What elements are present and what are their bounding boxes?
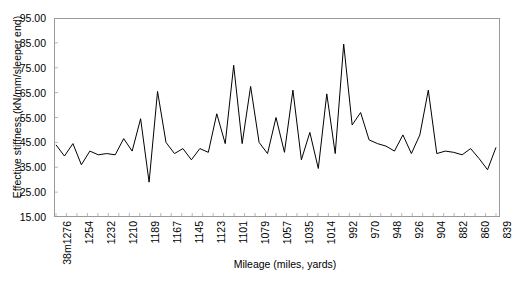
data-series-line [56,44,496,182]
x-axis-tick-label: 1101 [237,221,249,244]
x-axis-tick-label: 1189 [149,221,161,244]
y-axis-tick-label: 75.00 [20,62,46,74]
x-axis-tick-label: 1254 [83,221,95,244]
x-axis-tick-label: 860 [479,221,491,239]
x-axis-tick-label: 882 [457,221,469,239]
chart-root: Effective stiffness (kN/mm/sleeper end) … [0,0,514,281]
x-axis-tick-label: 948 [391,221,403,239]
x-axis-tick-label: 992 [347,221,359,239]
x-axis-tick-label: 839 [501,221,513,239]
y-axis-tick-label: 85.00 [20,37,46,49]
y-axis-tick-label: 95.00 [20,12,46,24]
x-axis-tick-label: 1210 [127,221,139,244]
x-axis-tick-label: 926 [413,221,425,239]
x-axis-title-wrapper: Mileage (miles, yards) [0,258,514,270]
x-axis-title: Mileage (miles, yards) [178,258,337,270]
y-axis-tick-labels: 95.0085.0075.0065.0055.0045.0035.0025.00… [0,0,52,240]
x-axis-tick-label: 1057 [281,221,293,244]
x-axis-tick-label: 1035 [303,221,315,244]
x-axis-tick-label: 1232 [105,221,117,244]
y-axis-tick-label: 25.00 [20,186,46,198]
x-axis-tick-label: 1167 [171,221,183,244]
x-axis-tick-label: 1079 [259,221,271,244]
y-axis-tick-label: 55.00 [20,112,46,124]
x-axis-tick-label: 1014 [325,221,337,244]
y-axis-tick-label: 35.00 [20,161,46,173]
x-axis-tick-labels: 38m1276125412321210118911671145112311011… [0,217,514,281]
line-series-plot [54,18,500,217]
x-axis-tick-label: 1123 [215,221,227,244]
x-axis-tick-label: 904 [435,221,447,239]
x-axis-tick-label: 1145 [193,221,205,244]
y-axis-tick-label: 65.00 [20,87,46,99]
x-axis-tick-label: 970 [369,221,381,239]
y-axis-tick-label: 45.00 [20,136,46,148]
